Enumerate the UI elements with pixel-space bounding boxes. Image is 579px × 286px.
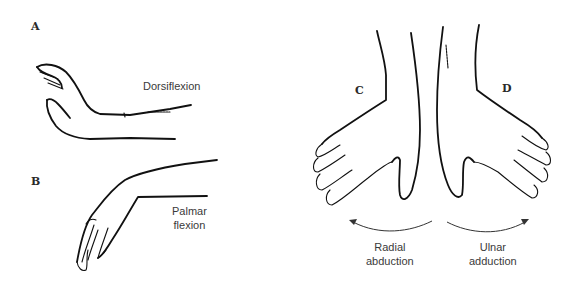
caption-ulnar-adduction-line-1: Ulnar: [469, 240, 517, 254]
hand-dorsiflexion-drawing: [37, 65, 191, 139]
caption-palmar-flexion-line-1: Palmar: [172, 204, 207, 218]
hand-ulnar-adduction-drawing: [437, 25, 551, 198]
caption-radial-abduction-line-1: Radial: [366, 240, 414, 254]
hand-radial-abduction-drawing: [314, 31, 421, 205]
caption-radial-abduction-line-2: abduction: [366, 254, 414, 268]
panel-label-b: B: [31, 175, 40, 188]
panel-label-a: A: [31, 20, 40, 33]
wrist-motion-diagram: A B C D Dorsiflexion Palmar flexion Radi…: [0, 0, 579, 286]
ulnar-adduction-arrow: [447, 219, 529, 232]
caption-ulnar-adduction-line-2: adduction: [469, 254, 517, 268]
panel-label-c: C: [355, 84, 364, 97]
caption-dorsiflexion-line-1: Dorsiflexion: [143, 80, 200, 92]
caption-dorsiflexion: Dorsiflexion: [143, 79, 200, 93]
radial-abduction-arrow: [349, 219, 432, 231]
caption-ulnar-adduction: Ulnar adduction: [469, 240, 517, 268]
caption-palmar-flexion: Palmar flexion: [172, 204, 207, 232]
panel-label-d: D: [502, 82, 512, 95]
caption-radial-abduction: Radial abduction: [366, 240, 414, 268]
caption-palmar-flexion-line-2: flexion: [172, 218, 207, 232]
